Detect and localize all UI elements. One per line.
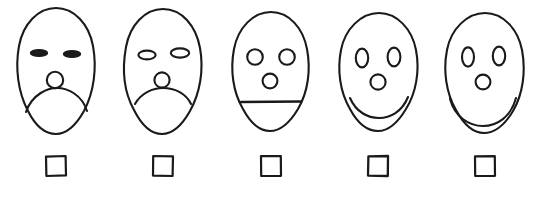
eye-left xyxy=(356,49,368,68)
eye-left xyxy=(247,49,263,65)
checkbox-5[interactable] xyxy=(472,153,498,179)
rating-option-4[interactable]: Happy xyxy=(326,0,430,199)
eye-right xyxy=(279,49,295,65)
rating-option-1[interactable]: Very unhappy xyxy=(4,0,108,199)
eye-right xyxy=(171,48,189,57)
mouth-neutral xyxy=(241,102,301,103)
checkbox-cell-3[interactable] xyxy=(219,145,323,195)
face-rating-scale: Very unhappy Unhappy xyxy=(0,0,541,199)
rating-option-5[interactable]: Very happy xyxy=(433,0,537,199)
checkbox-4[interactable] xyxy=(365,153,391,179)
nose xyxy=(155,72,170,87)
nose xyxy=(47,72,63,88)
nose xyxy=(262,74,277,89)
face-drawing-happy: Happy xyxy=(326,0,430,145)
eye-right xyxy=(493,47,505,66)
checkbox-1[interactable] xyxy=(43,153,69,179)
checkbox-cell-4[interactable] xyxy=(326,145,430,195)
face-drawing-neutral: Neutral xyxy=(219,0,323,145)
face-drawing-very-happy: Very happy xyxy=(433,0,537,145)
rating-option-3[interactable]: Neutral xyxy=(219,0,323,199)
mouth-frown xyxy=(135,88,191,104)
eye-left xyxy=(31,50,48,56)
rating-option-2[interactable]: Unhappy xyxy=(111,0,215,199)
checkbox-cell-1[interactable] xyxy=(4,145,108,195)
eye-right xyxy=(387,48,400,67)
face-drawing-very-unhappy: Very unhappy xyxy=(4,0,108,145)
head-outline xyxy=(232,12,308,131)
head-outline xyxy=(339,13,417,131)
checkbox-cell-2[interactable] xyxy=(111,145,215,195)
eye-right xyxy=(64,51,81,57)
mouth-smile xyxy=(350,97,408,118)
mouth-frown xyxy=(26,88,87,112)
face-drawing-unhappy: Unhappy xyxy=(111,0,215,145)
eye-left xyxy=(462,47,474,66)
checkbox-cell-5[interactable] xyxy=(433,145,537,195)
checkbox-3[interactable] xyxy=(258,153,284,179)
head-outline xyxy=(445,13,523,133)
nose xyxy=(476,75,491,90)
eye-left xyxy=(139,51,156,60)
nose xyxy=(370,74,385,89)
checkbox-2[interactable] xyxy=(150,153,176,179)
